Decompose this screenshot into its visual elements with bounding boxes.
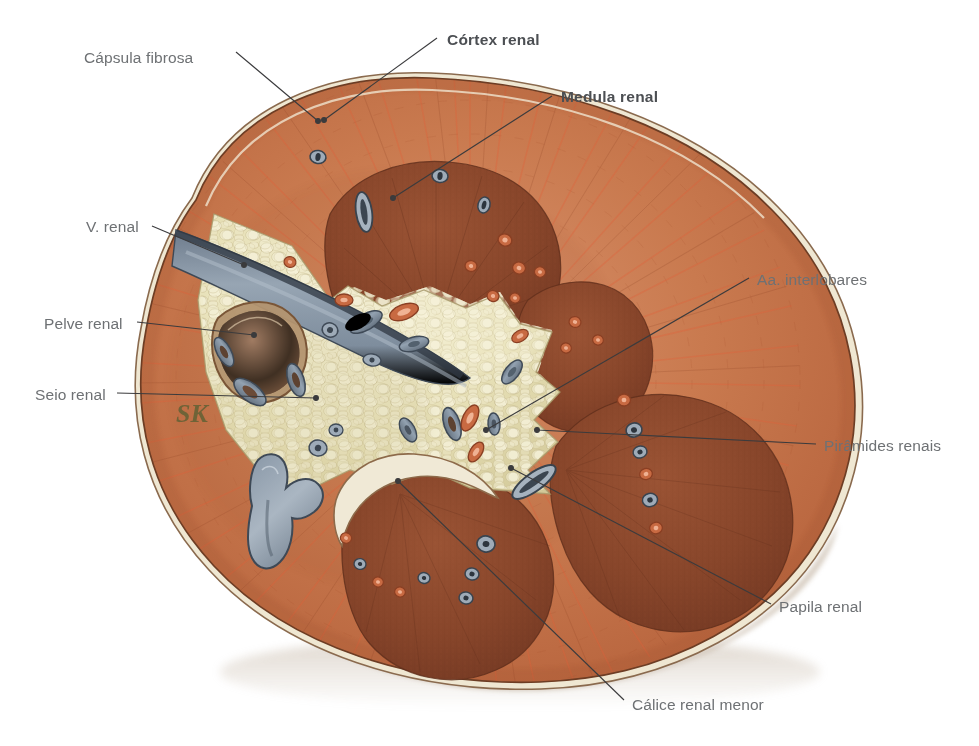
label-piramides-renais: Pirâmides renais [824,438,941,454]
leader-dot-seio-renal [314,396,319,401]
label-seio-renal: Seio renal [35,387,106,403]
leader-dot-pelve-renal [252,333,257,338]
leader-dot-papila-renal [509,466,514,471]
artist-signature: SK [176,399,209,428]
label-medula-renal: Medula renal [561,89,658,105]
leader-dot-calice-renal-menor [396,479,401,484]
label-papila-renal: Papila renal [779,599,862,615]
kidney-cross-section-figure: SK Cápsula fibrosaCórtex renalMedula ren… [0,0,979,746]
label-calice-renal-menor: Cálice renal menor [632,697,764,713]
label-capsula-fibrosa: Cápsula fibrosa [84,50,193,66]
leader-dot-aa-interlobares [484,428,489,433]
leader-dot-medula-renal [391,196,396,201]
signature-text: SK [176,399,209,428]
leader-dot-v-renal [242,263,247,268]
leader-dot-piramides-renais [535,428,540,433]
label-pelve-renal: Pelve renal [44,316,123,332]
label-aa-interlobares: Aa. interlobares [757,272,867,288]
leader-dot-cortex-renal [322,118,327,123]
label-cortex-renal: Córtex renal [447,32,540,48]
label-v-renal: V. renal [86,219,139,235]
leader-dot-capsula-fibrosa [316,119,321,124]
kidney-illustration: SK [0,0,979,746]
